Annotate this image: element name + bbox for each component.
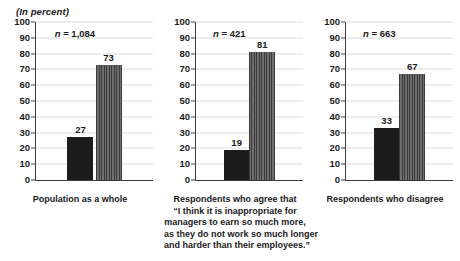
panel-caption-line: Population as a whole [4,194,156,206]
panel-caption-line: managers to earn so much more, [164,217,306,229]
y-axis-tick-label: 80 [329,49,340,59]
y-axis-labels: 0102030405060708090100 [160,22,190,180]
y-axis-tick-label: 40 [19,112,30,122]
y-axis-tick-label: 0 [25,175,30,185]
y-axis-tick-label: 30 [329,128,340,138]
panel-caption: Population as a whole [0,194,160,206]
panel-caption-line: as they do not work so much longer [164,229,306,241]
y-axis-tick-label: 10 [329,159,340,169]
bar-value-label: 73 [103,52,114,63]
chart-panels: 01020304050607080901002773n = 1,084Popul… [0,22,460,261]
y-axis-tick-label: 60 [19,80,30,90]
y-axis-tick-label: 10 [19,159,30,169]
bar [224,150,250,180]
y-axis-tick-label: 20 [179,144,190,154]
y-axis-tick-label: 40 [179,112,190,122]
y-axis-tick-label: 50 [179,96,190,106]
bar [96,65,122,180]
y-axis-tick-label: 20 [19,144,30,154]
chart-panel: 01020304050607080901002773n = 1,084Popul… [0,22,160,261]
bar-value-label: 33 [381,115,392,126]
y-axis-tick-label: 10 [179,159,190,169]
y-axis-tick-label: 90 [179,33,190,43]
x-axis-line [345,180,453,181]
bar [67,137,93,180]
bar-value-label: 19 [231,137,242,148]
y-axis-labels: 0102030405060708090100 [310,22,340,180]
y-axis-tick-label: 100 [324,17,340,27]
y-axis-tick-label: 0 [185,175,190,185]
y-axis-labels: 0102030405060708090100 [0,22,30,180]
sample-size-label: n = 421 [213,28,246,39]
panel-caption-line: and harder than their employees.” [164,240,306,252]
y-axis-tick-label: 100 [14,17,30,27]
plot-area: 01020304050607080901002773n = 1,084 [0,22,160,192]
y-axis-tick-label: 20 [329,144,340,154]
y-axis-tick-label: 70 [329,65,340,75]
chart-panel: 01020304050607080901001981n = 421Respond… [160,22,310,261]
y-axis-tick-label: 80 [19,49,30,59]
y-axis-tick-label: 50 [329,96,340,106]
y-axis-tick-label: 50 [19,96,30,106]
y-axis-tick-label: 70 [179,65,190,75]
y-axis-tick-label: 90 [19,33,30,43]
bar [374,128,400,180]
panel-caption-line: “I think it is inappropriate for [164,206,306,218]
panel-caption-line: Respondents who agree that [164,194,306,206]
x-axis-line [35,180,153,181]
bars-container: 1981n = 421 [196,22,303,180]
y-axis-tick-label: 30 [19,128,30,138]
y-axis-tick-label: 30 [179,128,190,138]
y-axis-tick-label: 100 [174,17,190,27]
y-axis-tick-label: 60 [179,80,190,90]
plot-area: 01020304050607080901003367n = 663 [310,22,460,192]
bar-value-label: 67 [407,61,418,72]
panel-caption-line: Respondents who disagree [314,194,456,206]
plot-area: 01020304050607080901001981n = 421 [160,22,310,192]
y-axis-tick-label: 0 [335,175,340,185]
y-axis-tick-label: 60 [329,80,340,90]
sample-size-label: n = 663 [363,28,396,39]
chart-figure: (In percent) 01020304050607080901002773n… [0,0,460,261]
y-axis-tick-label: 40 [329,112,340,122]
sample-size-label: n = 1,084 [55,28,95,39]
bar [399,74,425,180]
bars-container: 3367n = 663 [346,22,453,180]
y-axis-tick-label: 70 [19,65,30,75]
bar-value-label: 81 [257,39,268,50]
panel-caption: Respondents who disagree [310,194,460,206]
bar [249,52,275,180]
bar-value-label: 27 [75,124,86,135]
bars-container: 2773n = 1,084 [36,22,153,180]
panel-caption: Respondents who agree that“I think it is… [160,194,310,252]
x-axis-line [195,180,303,181]
chart-panel: 01020304050607080901003367n = 663Respond… [310,22,460,261]
y-axis-tick-label: 90 [329,33,340,43]
y-axis-tick-label: 80 [179,49,190,59]
